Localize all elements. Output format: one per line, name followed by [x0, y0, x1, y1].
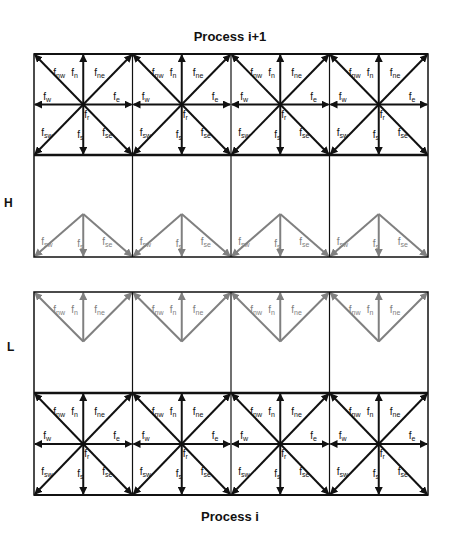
label-f-e: fe [310, 91, 317, 103]
vector-ne-arrow-icon [182, 394, 230, 444]
vector-ne-arrow-icon [379, 394, 427, 444]
label-f-n: fn [367, 406, 374, 418]
label-f-ne: fne [291, 304, 302, 316]
vector-se-arrow-icon [182, 214, 230, 256]
label-f-n: fn [367, 67, 374, 79]
label-f-ne: fne [193, 67, 204, 79]
lattice-cell: fnwfnfnefwfefswfsfsefr [331, 55, 428, 154]
label-f-nw: fnw [250, 304, 263, 316]
lattice-cell: fswfsfse [35, 214, 132, 256]
label-f-nw: fnw [152, 67, 165, 79]
vector-ne-arrow-icon [280, 394, 328, 444]
label-f-e: fe [409, 430, 416, 442]
vector-se-arrow-icon [379, 105, 427, 155]
vector-sw-arrow-icon [232, 214, 280, 256]
label-f-e: fe [409, 91, 416, 103]
label-f-w: fw [339, 430, 348, 442]
label-f-w: fw [339, 91, 348, 103]
label-f-n: fn [71, 304, 78, 316]
label-f-w: fw [240, 91, 249, 103]
lattice-cell: fnwfnfne [232, 293, 329, 342]
label-f-nw: fnw [250, 406, 263, 418]
label-f-sw: fsw [41, 127, 53, 139]
lattice-cell: fnwfnfne [134, 293, 231, 342]
label-f-nw: fnw [53, 406, 66, 418]
vector-se-arrow-icon [379, 214, 427, 256]
vector-nw-arrow-icon [35, 394, 83, 444]
lattice-cell: fswfsfse [331, 214, 428, 256]
vector-ne-arrow-icon [379, 55, 427, 105]
label-f-ne: fne [390, 67, 401, 79]
label-f-nw: fnw [152, 304, 165, 316]
label-f-nw: fnw [53, 304, 66, 316]
vector-ne-arrow-icon [280, 55, 328, 105]
vector-ne-arrow-icon [83, 394, 131, 444]
lattice-cell: fnwfnfne [35, 293, 132, 342]
label-f-e: fe [310, 430, 317, 442]
vector-ne-arrow-icon [182, 293, 230, 342]
label-f-w: fw [43, 430, 52, 442]
label-f-e: fe [212, 91, 219, 103]
label-f-e: fe [113, 430, 120, 442]
label-f-ne: fne [193, 406, 204, 418]
vector-sw-arrow-icon [331, 214, 379, 256]
vector-nw-arrow-icon [232, 394, 280, 444]
label-f-sw: fsw [238, 127, 250, 139]
label-f-nw: fnw [349, 406, 362, 418]
label-f-w: fw [142, 91, 151, 103]
lattice-cell: fnwfnfnefwfefswfsfsefr [35, 394, 132, 494]
label-f-ne: fne [291, 406, 302, 418]
lattice-cell: fnwfnfnefwfefswfsfsefr [35, 55, 132, 154]
label-f-w: fw [43, 91, 52, 103]
label-f-n: fn [268, 304, 275, 316]
vector-se-arrow-icon [83, 214, 131, 256]
label-f-ne: fne [390, 304, 401, 316]
label-f-nw: fnw [349, 67, 362, 79]
vector-se-arrow-icon [379, 444, 427, 494]
vector-se-arrow-icon [280, 444, 328, 494]
lattice-cell: fnwfnfnefwfefswfsfsefr [232, 394, 329, 494]
vector-nw-arrow-icon [331, 394, 379, 444]
label-f-sw: fsw [140, 466, 152, 478]
top-grid-lines [34, 54, 428, 257]
lattice-cell: fnwfnfne [331, 293, 428, 342]
vector-nw-arrow-icon [35, 293, 83, 342]
vector-se-arrow-icon [280, 214, 328, 256]
vector-se-arrow-icon [182, 105, 230, 155]
label-f-n: fn [367, 304, 374, 316]
bottom-grid-lines [34, 292, 428, 495]
label-f-n: fn [71, 406, 78, 418]
vector-nw-arrow-icon [232, 293, 280, 342]
lattice-grid-svg: fnwfnfnefwfefswfsfsefrfnwfnfnefwfefswfsf… [0, 0, 449, 535]
vector-nw-arrow-icon [232, 55, 280, 105]
vector-ne-arrow-icon [379, 293, 427, 342]
label-f-e: fe [113, 91, 120, 103]
label-f-n: fn [268, 67, 275, 79]
label-f-e: fe [212, 430, 219, 442]
vector-nw-arrow-icon [331, 55, 379, 105]
label-f-sw: fsw [41, 236, 53, 248]
label-f-ne: fne [390, 406, 401, 418]
label-f-ne: fne [94, 67, 105, 79]
vector-se-arrow-icon [280, 105, 328, 155]
vector-ne-arrow-icon [182, 55, 230, 105]
label-f-sw: fsw [337, 127, 349, 139]
lattice-cell: fnwfnfnefwfefswfsfsefr [134, 394, 231, 494]
vector-nw-arrow-icon [134, 55, 182, 105]
label-f-sw: fsw [238, 466, 250, 478]
vector-sw-arrow-icon [134, 214, 182, 256]
vector-ne-arrow-icon [280, 293, 328, 342]
label-f-sw: fsw [140, 127, 152, 139]
label-f-ne: fne [94, 406, 105, 418]
vector-ne-arrow-icon [83, 55, 131, 105]
lattice-cell: fnwfnfnefwfefswfsfsefr [232, 55, 329, 154]
label-f-nw: fnw [250, 67, 263, 79]
lattice-cell: fnwfnfnefwfefswfsfsefr [331, 394, 428, 494]
label-f-ne: fne [193, 304, 204, 316]
vector-nw-arrow-icon [134, 293, 182, 342]
label-f-ne: fne [94, 304, 105, 316]
label-f-ne: fne [291, 67, 302, 79]
label-f-sw: fsw [238, 236, 250, 248]
label-f-nw: fnw [53, 67, 66, 79]
label-f-n: fn [170, 406, 177, 418]
